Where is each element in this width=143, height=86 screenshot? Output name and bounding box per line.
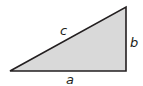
label-hypotenuse: c <box>60 23 67 38</box>
label-vertical-leg: b <box>130 35 138 50</box>
right-triangle <box>10 7 126 71</box>
triangle-diagram: c b a <box>0 0 143 86</box>
label-horizontal-leg: a <box>66 72 74 86</box>
